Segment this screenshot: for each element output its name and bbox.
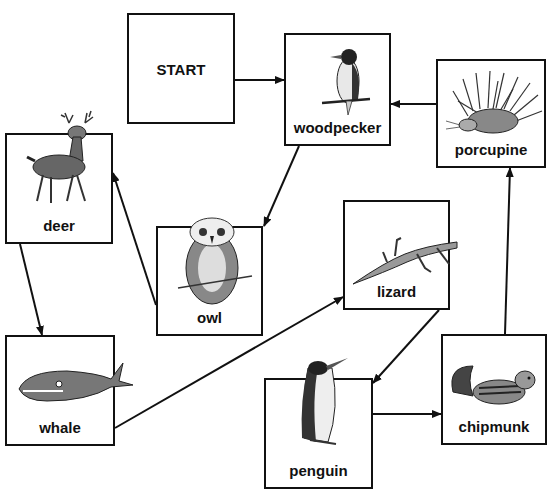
owl-icon (158, 218, 265, 303)
arrow-chipmunk-porcupine (505, 168, 510, 334)
node-label: whale (7, 419, 113, 436)
node-chipmunk: chipmunk (441, 334, 547, 445)
node-label: lizard (345, 283, 448, 300)
lizard-icon (345, 202, 452, 287)
arrow-lizard-penguin (373, 310, 439, 383)
node-label: deer (7, 217, 111, 234)
node-penguin: penguin (264, 378, 373, 489)
node-label: penguin (266, 462, 371, 479)
whale-icon (7, 337, 127, 417)
node-owl: owl (156, 226, 263, 336)
node-porcupine: porcupine (436, 59, 546, 168)
node-label: owl (158, 309, 261, 326)
node-label: START (129, 60, 233, 77)
deer-icon (7, 111, 115, 201)
node-woodpecker: woodpecker (284, 33, 391, 146)
arrow-deer-whale (20, 244, 42, 335)
node-label: chipmunk (443, 418, 545, 435)
node-label: porcupine (438, 141, 544, 158)
penguin-icon (266, 358, 375, 448)
chipmunk-icon (443, 336, 549, 421)
node-lizard: lizard (343, 200, 450, 310)
arrow-woodpecker-owl (264, 146, 299, 226)
node-label: woodpecker (286, 119, 389, 136)
woodpecker-icon (286, 35, 393, 120)
node-deer: deer (5, 133, 113, 244)
porcupine-icon (438, 61, 548, 141)
arrow-owl-deer (113, 173, 156, 305)
node-start: START (127, 13, 235, 124)
node-whale: whale (5, 335, 115, 446)
